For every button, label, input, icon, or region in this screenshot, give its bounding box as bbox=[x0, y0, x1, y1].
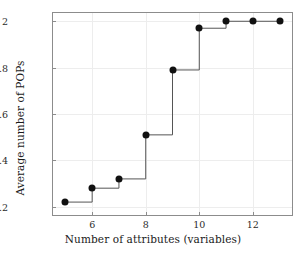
y-tick-mark bbox=[52, 114, 56, 115]
plot-area bbox=[52, 12, 293, 216]
x-tick-mark bbox=[199, 212, 200, 216]
data-point-marker bbox=[276, 18, 283, 25]
y-tick-mark bbox=[52, 207, 56, 208]
x-tick-mark bbox=[146, 212, 147, 216]
y-tick-label: 2 bbox=[2, 16, 8, 27]
data-point-marker bbox=[89, 185, 96, 192]
y-tick-mark bbox=[52, 160, 56, 161]
data-point-marker bbox=[223, 18, 230, 25]
data-point-marker bbox=[62, 199, 69, 206]
gridline-horizontal bbox=[53, 160, 292, 161]
x-tick-mark bbox=[253, 212, 254, 216]
x-tick-label: 6 bbox=[89, 219, 95, 230]
y-tick-mark bbox=[52, 68, 56, 69]
gridline-horizontal bbox=[53, 207, 292, 208]
y-tick-mark bbox=[52, 21, 56, 22]
y-tick-label: 1.4 bbox=[0, 155, 8, 166]
x-tick-label: 12 bbox=[247, 219, 259, 230]
y-axis-label: Average number of POPs bbox=[14, 28, 26, 228]
y-tick-label: 1.2 bbox=[0, 201, 8, 212]
y-tick-label: 1.6 bbox=[0, 109, 8, 120]
x-tick-mark bbox=[92, 212, 93, 216]
chart-figure: 681012 1.21.41.61.82 Number of attribute… bbox=[0, 0, 306, 255]
x-tick-label: 10 bbox=[193, 219, 205, 230]
data-point-marker bbox=[169, 66, 176, 73]
x-axis-label: Number of attributes (variables) bbox=[0, 233, 306, 245]
gridline-horizontal bbox=[53, 114, 292, 115]
y-tick-label: 1.8 bbox=[0, 62, 8, 73]
data-point-marker bbox=[249, 18, 256, 25]
x-tick-label: 8 bbox=[143, 219, 149, 230]
data-point-marker bbox=[115, 175, 122, 182]
data-point-marker bbox=[142, 131, 149, 138]
data-point-marker bbox=[196, 25, 203, 32]
